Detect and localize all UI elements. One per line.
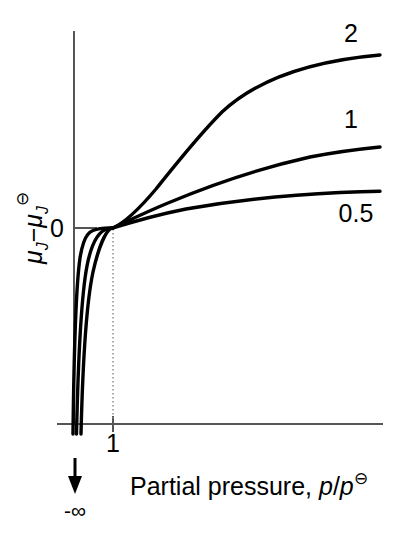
y-axis-mu-1: μ <box>19 250 47 265</box>
x-tick-label-1: 1 <box>106 429 120 457</box>
x-axis-title-p-denominator: p <box>339 472 354 500</box>
curve-label-1: 1 <box>344 105 358 133</box>
y-tick-label-0: 0 <box>50 214 64 242</box>
curve-0point5 <box>81 191 380 434</box>
y-axis-standard-state-icon: ⊖ <box>13 192 32 206</box>
negative-infinity-arrow <box>68 458 82 494</box>
curve-label-0point5: 0.5 <box>339 199 374 227</box>
negative-infinity-label: -∞ <box>64 499 86 522</box>
curve-2 <box>73 55 380 434</box>
x-axis-title-slash: / <box>333 472 340 500</box>
svg-text:μJ−μJ⊖: μJ−μJ⊖ <box>13 192 51 265</box>
x-axis-standard-state-icon: ⊖ <box>354 469 368 488</box>
y-axis-mu-2: μ <box>19 214 47 229</box>
y-axis-title: μJ−μJ⊖ <box>13 192 51 265</box>
curve-1 <box>77 147 381 434</box>
chemical-potential-chart: 2 1 0.5 0 1 μJ−μJ⊖ Partial pressure, p/p… <box>0 0 400 541</box>
curve-label-2: 2 <box>344 19 358 47</box>
y-axis-sub-j-2: J <box>34 205 51 215</box>
down-arrow-head <box>68 476 82 494</box>
x-axis-title-text: Partial pressure, <box>130 472 319 500</box>
y-axis-minus: − <box>19 228 47 243</box>
x-axis-title-p-numerator: p <box>318 472 333 500</box>
x-axis-title: Partial pressure, p/p⊖ <box>130 469 368 500</box>
